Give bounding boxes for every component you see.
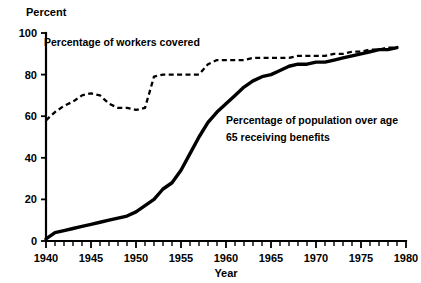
workers-covered-label: Percentage of workers covered xyxy=(44,36,200,48)
x-tick-label: 1940 xyxy=(34,252,58,264)
x-tick-label: 1950 xyxy=(124,252,148,264)
x-tick-label: 1970 xyxy=(304,252,328,264)
y-axis-title: Percent xyxy=(26,6,67,18)
x-tick-label: 1955 xyxy=(169,252,193,264)
y-tick-label: 60 xyxy=(25,110,37,122)
series-line-population-benefits xyxy=(46,48,397,239)
y-axis-title-text: Percent xyxy=(26,6,67,18)
x-axis-title-text: Year xyxy=(214,267,238,279)
data-series-group xyxy=(46,48,397,239)
population-benefits-label-line2: 65 receiving benefits xyxy=(226,131,330,143)
x-axis-ticks: 194019451950195519601965197019751980 xyxy=(34,241,418,264)
x-tick-label: 1975 xyxy=(349,252,373,264)
y-tick-label: 20 xyxy=(25,193,37,205)
y-axis-ticks: 020406080100 xyxy=(19,27,46,247)
y-tick-label: 100 xyxy=(19,27,37,39)
x-tick-label: 1980 xyxy=(394,252,418,264)
chart-container: Percent 020406080100 1940194519501955196… xyxy=(0,0,421,283)
population-benefits-label-line1: Percentage of population over age xyxy=(226,114,398,126)
line-chart: Percent 020406080100 1940194519501955196… xyxy=(0,0,421,283)
y-tick-label: 0 xyxy=(31,235,37,247)
y-tick-label: 40 xyxy=(25,152,37,164)
chart-annotations: Percentage of workers coveredPercentage … xyxy=(44,36,398,143)
y-tick-label: 80 xyxy=(25,69,37,81)
x-tick-label: 1960 xyxy=(214,252,238,264)
x-tick-label: 1945 xyxy=(79,252,103,264)
x-tick-label: 1965 xyxy=(259,252,283,264)
